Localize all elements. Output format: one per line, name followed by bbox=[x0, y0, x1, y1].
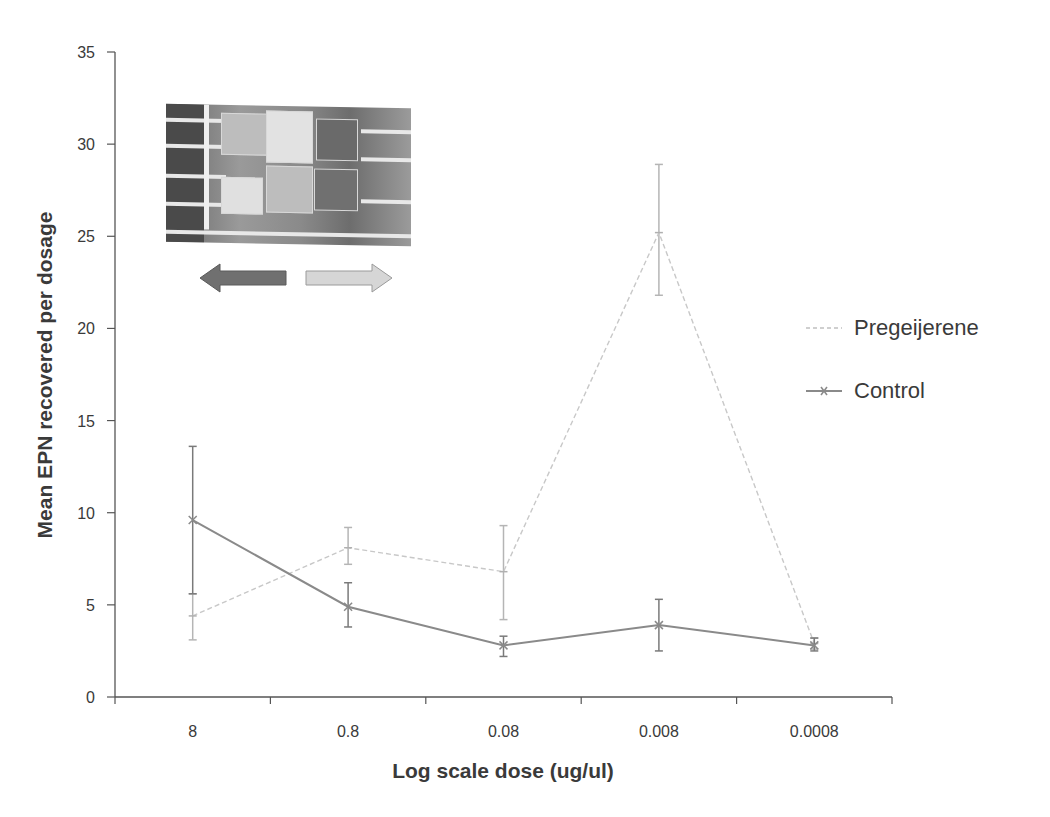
legend-item-control: Control bbox=[806, 376, 979, 406]
y-axis: 05101520253035 bbox=[77, 44, 115, 706]
y-tick-label: 20 bbox=[77, 320, 95, 337]
x-tick-label: 0.8 bbox=[337, 723, 359, 740]
legend: Pregeijerene Control bbox=[806, 313, 979, 439]
y-tick-label: 10 bbox=[77, 505, 95, 522]
x-tick-label: 0.008 bbox=[639, 723, 679, 740]
arrow-left-icon bbox=[200, 262, 290, 294]
y-tick-label: 15 bbox=[77, 413, 95, 430]
y-tick-label: 25 bbox=[77, 228, 95, 245]
x-tick-label: 8 bbox=[188, 723, 197, 740]
x-marker-line-icon bbox=[806, 384, 842, 398]
legend-label: Control bbox=[854, 378, 925, 404]
arrow-right-icon bbox=[304, 262, 394, 294]
y-tick-label: 30 bbox=[77, 136, 95, 153]
x-axis: 80.80.080.0080.0008 bbox=[115, 697, 892, 740]
x-tick-label: 0.0008 bbox=[790, 723, 839, 740]
x-axis-title: Log scale dose (ug/ul) bbox=[392, 759, 614, 782]
arena-photo-inset bbox=[166, 104, 411, 246]
x-tick-label: 0.08 bbox=[488, 723, 519, 740]
legend-item-pregeijerene: Pregeijerene bbox=[806, 313, 979, 343]
legend-label: Pregeijerene bbox=[854, 315, 979, 341]
y-tick-label: 0 bbox=[86, 689, 95, 706]
y-axis-title: Mean EPN recovered per dosage bbox=[33, 212, 56, 539]
y-tick-label: 35 bbox=[77, 44, 95, 61]
y-tick-label: 5 bbox=[86, 597, 95, 614]
dashed-line-icon bbox=[806, 321, 842, 335]
